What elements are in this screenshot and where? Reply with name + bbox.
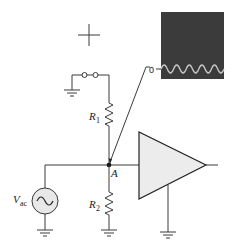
ground-icon [101, 230, 117, 236]
node-a-label: A [110, 167, 118, 179]
r1-label: R [88, 110, 96, 122]
ac-voltage-source [32, 165, 58, 236]
r2-subscript: 2 [96, 204, 100, 213]
ground-icon [64, 90, 80, 96]
terminal-icon [93, 73, 98, 78]
ground-icon [37, 230, 53, 236]
r2-label: R [88, 198, 96, 210]
oscilloscope-display [156, 12, 224, 79]
resistor-r1 [105, 103, 113, 165]
ground-icon [160, 232, 176, 238]
terminal-icon [82, 73, 87, 78]
r1-subscript: 1 [96, 116, 100, 125]
circuit-diagram: 0 R 1 A R 2 [0, 0, 239, 250]
amplifier-triangle [139, 132, 218, 238]
top-supply-branch [64, 73, 109, 104]
vac-subscript: ac [20, 199, 28, 208]
crosshair-mark [78, 24, 100, 46]
